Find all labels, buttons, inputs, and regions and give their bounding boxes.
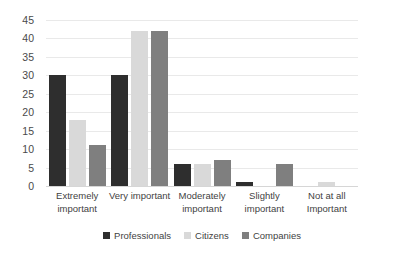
y-axis-tick-label: 10: [22, 144, 34, 155]
x-axis-category-label: Extremelyimportant: [46, 190, 108, 215]
legend-swatch-icon: [242, 232, 249, 239]
x-axis-category-label: Very important: [108, 190, 170, 215]
y-axis-tick-label: 40: [22, 33, 34, 44]
x-axis-category-label-line: Not at all: [296, 190, 358, 203]
legend-label: Citizens: [195, 231, 229, 241]
legend-swatch-icon: [184, 232, 191, 239]
y-axis-tick-label: 30: [22, 70, 34, 81]
bar-group: [108, 20, 170, 186]
bar: [89, 145, 106, 186]
bar-chart: 454035302520151050 ExtremelyimportantVer…: [0, 0, 404, 260]
x-axis-category-label-line: Important: [296, 203, 358, 216]
y-axis-tick-label: 45: [22, 15, 34, 26]
y-axis: 454035302520151050: [0, 20, 40, 186]
bar: [318, 182, 335, 186]
bar: [69, 120, 86, 186]
y-axis-tick-label: 15: [22, 125, 34, 136]
y-axis-tick-label: 35: [22, 52, 34, 63]
bar: [111, 75, 128, 186]
x-axis-category-label-line: important: [171, 203, 233, 216]
x-axis-category-label: Not at allImportant: [296, 190, 358, 215]
bar: [194, 164, 211, 186]
x-axis-category-label-line: Very important: [108, 190, 170, 203]
x-axis-category-label-line: Slightly: [233, 190, 295, 203]
x-axis-category-label-line: Extremely: [46, 190, 108, 203]
bar: [214, 160, 231, 186]
bar-groups: [46, 20, 358, 186]
legend-label: Professionals: [114, 231, 171, 241]
x-axis-category-label: Slightlyimportant: [233, 190, 295, 215]
legend-item[interactable]: Citizens: [184, 231, 229, 241]
chart-legend: ProfessionalsCitizensCompanies: [0, 231, 404, 241]
bar: [276, 164, 293, 186]
legend-item[interactable]: Professionals: [103, 231, 171, 241]
bar-group: [296, 20, 358, 186]
plot-area: [46, 20, 358, 186]
bar-group: [233, 20, 295, 186]
bar: [131, 31, 148, 186]
y-axis-tick-label: 5: [28, 162, 34, 173]
x-axis-category-label: Moderatelyimportant: [171, 190, 233, 215]
legend-swatch-icon: [103, 232, 110, 239]
bar-group: [171, 20, 233, 186]
bar: [49, 75, 66, 186]
y-axis-tick-label: 0: [28, 181, 34, 192]
bar: [174, 164, 191, 186]
gridline: [46, 186, 358, 187]
bar-group: [46, 20, 108, 186]
bar: [236, 182, 253, 186]
bar: [151, 31, 168, 186]
legend-item[interactable]: Companies: [242, 231, 301, 241]
x-axis-category-label-line: important: [46, 203, 108, 216]
y-axis-tick-label: 25: [22, 89, 34, 100]
x-axis-category-label-line: Moderately: [171, 190, 233, 203]
x-axis-category-labels: ExtremelyimportantVery importantModerate…: [46, 190, 358, 215]
y-axis-tick-label: 20: [22, 107, 34, 118]
x-axis-category-label-line: important: [233, 203, 295, 216]
legend-label: Companies: [253, 231, 301, 241]
